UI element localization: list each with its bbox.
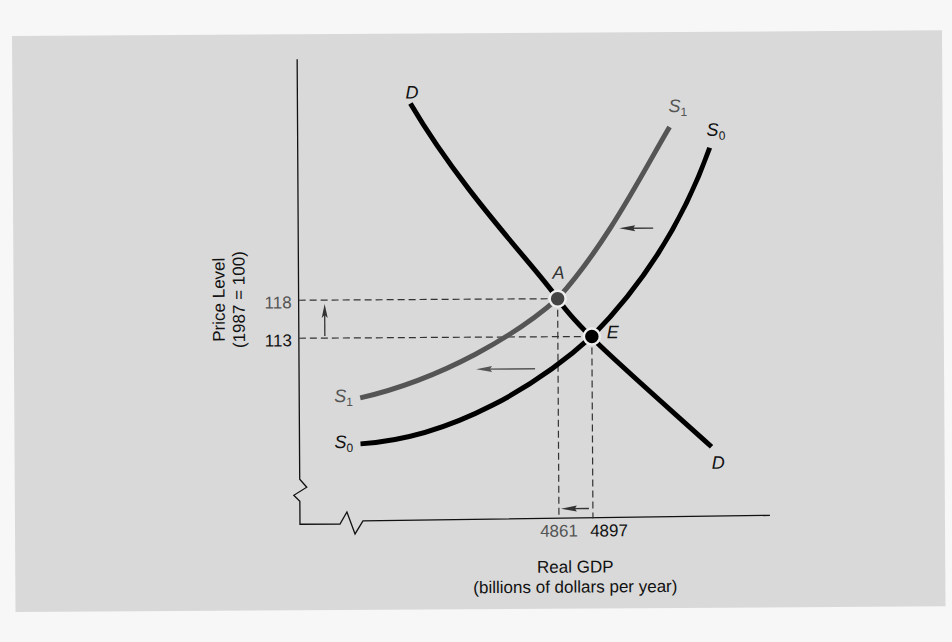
demand-label-bottom: D <box>712 453 725 473</box>
guide-line-113 <box>299 336 592 338</box>
x-axis-title: Real GDP <box>537 557 614 576</box>
x-tick-label-4861: 4861 <box>540 522 578 541</box>
supply-s1-label-top: S1 <box>668 96 687 119</box>
y-axis-title-group: Price Level (1987 = 100) <box>209 251 249 348</box>
x-tick-label-4897: 4897 <box>590 521 628 540</box>
supply-s1-label-bottom: S1 <box>334 386 353 409</box>
axis-lines <box>291 56 770 534</box>
axes <box>291 56 770 534</box>
demand-label-top: D <box>405 83 418 103</box>
gdp-change-arrow-head <box>561 506 577 512</box>
point-e-label: E <box>607 322 620 342</box>
shift-arrow-lower-head <box>476 366 492 372</box>
y-axis-title: Price Level <box>209 258 229 342</box>
guide-line-4897 <box>592 336 593 518</box>
point-a-marker <box>550 291 566 307</box>
y-tick-label-118: 118 <box>264 293 291 312</box>
supply-curve-s1 <box>359 127 672 398</box>
guide-lines <box>299 298 593 520</box>
chart-svg: Price Level (1987 = 100) 118 113 4861 48… <box>12 30 946 612</box>
shift-arrow-upper-head <box>619 225 635 231</box>
point-e-marker <box>584 328 600 344</box>
curves <box>358 102 711 449</box>
shift-arrows <box>321 225 655 513</box>
x-axis-subtitle: (billions of dollars per year) <box>473 577 677 597</box>
supply-s0-label-top: S0 <box>707 120 726 143</box>
y-tick-label-113: 113 <box>265 331 292 350</box>
guide-line-4861 <box>558 299 559 519</box>
y-axis-subtitle: (1987 = 100) <box>229 251 249 348</box>
guide-line-118 <box>299 299 558 301</box>
chart-panel: Price Level (1987 = 100) 118 113 4861 48… <box>12 30 946 612</box>
point-a-label: A <box>551 263 564 283</box>
supply-s0-label-bottom: S0 <box>334 432 353 455</box>
